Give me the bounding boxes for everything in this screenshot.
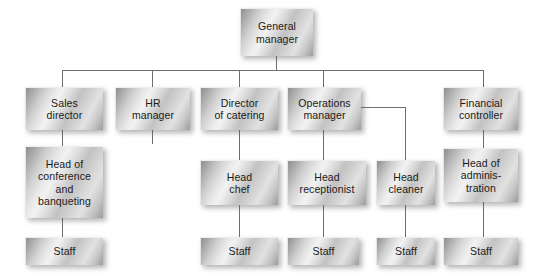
node-general-manager[interactable]: Generalmanager [240, 8, 313, 56]
node-financial-controller-label: Financialcontroller [453, 97, 509, 122]
edge-conference-to-staff [62, 218, 63, 237]
edge-drop-operations [323, 70, 324, 87]
edge-drop-catering [239, 70, 240, 87]
node-head-cleaner[interactable]: Headcleaner [376, 160, 435, 205]
edge-drop-sales [62, 70, 63, 87]
edge-operations-to-receptionist [323, 130, 324, 160]
edge-drop-hr [152, 70, 153, 87]
edge-catering-to-chef [239, 130, 240, 160]
edge-chef-to-staff [239, 205, 240, 237]
node-staff-reception[interactable]: Staff [287, 237, 359, 265]
edge-financial-to-admin [483, 130, 484, 148]
node-head-cleaner-label: Headcleaner [382, 171, 429, 196]
edge-receptionist-to-staff [323, 205, 324, 237]
node-staff-conference-label: Staff [51, 245, 79, 258]
edge-admin-to-staff [483, 202, 484, 237]
edge-drop-financial [483, 70, 484, 87]
node-operations-manager[interactable]: Operationsmanager [287, 87, 361, 130]
node-hr-manager-label: HRmanager [126, 97, 180, 122]
edge-level2-bus [62, 70, 484, 71]
node-head-of-administration[interactable]: Head ofadminis-tration [443, 148, 518, 202]
node-staff-reception-label: Staff [310, 245, 338, 258]
node-sales-director[interactable]: Salesdirector [25, 87, 103, 130]
node-head-receptionist[interactable]: Headreceptionist [287, 160, 366, 205]
node-staff-administration-label: Staff [467, 245, 495, 258]
node-head-chef[interactable]: Headchef [200, 160, 278, 205]
org-chart-canvas: Generalmanager Salesdirector HRmanager D… [0, 0, 542, 276]
node-staff-administration[interactable]: Staff [443, 237, 518, 265]
node-staff-conference[interactable]: Staff [25, 237, 103, 265]
edge-operations-elbow-v [405, 107, 406, 160]
node-director-of-catering-label: Directorof catering [208, 97, 270, 122]
node-head-receptionist-label: Headreceptionist [294, 171, 361, 196]
edge-gm-stem [276, 56, 277, 71]
node-staff-cleaning[interactable]: Staff [376, 237, 435, 265]
node-hr-manager[interactable]: HRmanager [115, 87, 190, 130]
node-operations-manager-label: Operationsmanager [292, 97, 356, 122]
node-staff-catering[interactable]: Staff [200, 237, 278, 265]
edge-hr-stub [152, 130, 153, 144]
node-head-of-conference-and-banqueting[interactable]: Head ofconferenceandbanqueting [25, 146, 103, 218]
node-financial-controller[interactable]: Financialcontroller [443, 87, 518, 130]
node-general-manager-label: Generalmanager [250, 20, 304, 45]
node-staff-cleaning-label: Staff [392, 245, 420, 258]
node-staff-catering-label: Staff [226, 245, 254, 258]
node-head-of-conference-label: Head ofconferenceandbanqueting [32, 158, 97, 208]
edge-sales-to-conference [62, 130, 63, 146]
node-head-chef-label: Headchef [221, 171, 259, 196]
edge-cleaner-to-staff [405, 205, 406, 237]
node-head-of-administration-label: Head ofadminis-tration [455, 157, 507, 195]
node-director-of-catering[interactable]: Directorof catering [200, 87, 278, 130]
edge-operations-elbow-h [360, 107, 406, 108]
node-sales-director-label: Salesdirector [41, 97, 89, 122]
